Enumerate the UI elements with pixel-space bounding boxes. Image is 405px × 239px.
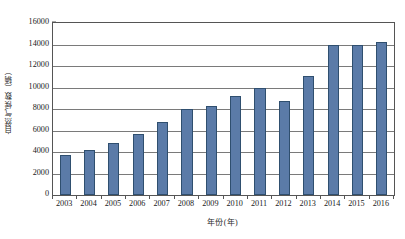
x-axis-tick-mark [174, 195, 175, 199]
y-axis-tick-label: 16000 [29, 18, 49, 26]
bar [157, 122, 168, 195]
y-axis-tick-label: 4000 [33, 147, 49, 155]
y-axis-tick-label: 6000 [33, 125, 49, 133]
bar [133, 134, 144, 195]
x-axis-tick-label: 2010 [226, 200, 242, 208]
bar [84, 150, 95, 195]
x-axis-tick-mark [369, 195, 370, 199]
y-axis-tick-label: 8000 [33, 104, 49, 112]
bar-chart-figure: 自然气候数（辆） 0200040006000800010000120001400… [0, 0, 405, 239]
x-axis-tick-mark [52, 195, 53, 199]
x-axis-tick-mark [247, 195, 248, 199]
y-axis-tick-label: 2000 [33, 168, 49, 176]
x-axis-tick-labels: 2003200420052006200720082009201020112012… [52, 195, 393, 213]
x-axis-tick-label: 2013 [300, 200, 316, 208]
bar-series [53, 23, 394, 195]
x-axis-tick-label: 2014 [324, 200, 340, 208]
x-axis-tick-mark [296, 195, 297, 199]
y-axis-tick-label: 10000 [29, 82, 49, 90]
y-axis-tick-label: 14000 [29, 39, 49, 47]
x-axis-tick-label: 2015 [348, 200, 364, 208]
x-axis-tick-mark [198, 195, 199, 199]
bar [60, 155, 71, 195]
y-axis-tick-label: 12000 [29, 61, 49, 69]
x-axis-tick-label: 2007 [153, 200, 169, 208]
x-axis-tick-label: 2006 [129, 200, 145, 208]
x-axis-tick-mark [76, 195, 77, 199]
x-axis-tick-label: 2008 [178, 200, 194, 208]
bar [230, 96, 241, 195]
bar [352, 45, 363, 196]
x-axis-tick-mark [125, 195, 126, 199]
plot-area [52, 22, 395, 196]
x-axis-title: 年份(年) [52, 216, 393, 227]
bar [328, 45, 339, 196]
y-axis-tick-label: 0 [45, 190, 49, 198]
x-axis-tick-mark [320, 195, 321, 199]
x-axis-tick-mark [344, 195, 345, 199]
x-axis-tick-label: 2016 [373, 200, 389, 208]
x-axis-tick-label: 2003 [56, 200, 72, 208]
x-axis-tick-label: 2004 [80, 200, 96, 208]
bar [279, 101, 290, 195]
x-axis-tick-mark [149, 195, 150, 199]
bar [206, 106, 217, 195]
bar [181, 109, 192, 195]
y-axis-tick-labels: 0200040006000800010000120001400016000 [14, 22, 52, 194]
bar [108, 143, 119, 195]
x-axis-tick-label: 2012 [275, 200, 291, 208]
bar [254, 88, 265, 196]
x-axis-tick-mark [271, 195, 272, 199]
x-axis-tick-label: 2005 [105, 200, 121, 208]
x-axis-tick-mark [223, 195, 224, 199]
bar [303, 76, 314, 195]
x-axis-tick-mark [393, 195, 394, 199]
bar [376, 42, 387, 195]
x-axis-tick-label: 2009 [202, 200, 218, 208]
x-axis-tick-mark [101, 195, 102, 199]
x-axis-tick-label: 2011 [251, 200, 267, 208]
